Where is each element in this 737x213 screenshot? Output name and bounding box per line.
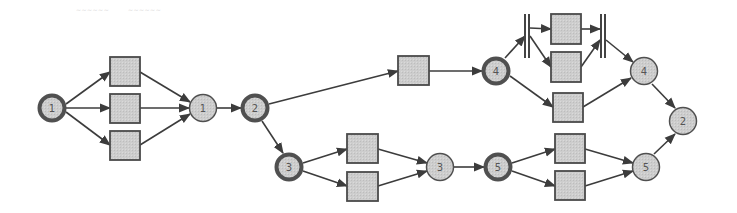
arrow-edge <box>654 134 675 154</box>
arrow-edge <box>140 72 190 102</box>
place-node-p-join-1: 1 <box>190 95 217 122</box>
transition-box-t5a <box>555 134 585 163</box>
arrow-edge <box>269 71 398 104</box>
arrow-edge <box>583 78 631 107</box>
transition-box-t1c <box>110 131 140 160</box>
place-node-p-split-4: 4 <box>484 59 509 84</box>
arrow-edge <box>585 171 633 186</box>
arrow-edge <box>66 72 110 104</box>
arrow-edge <box>510 76 553 107</box>
transition-box-tpa <box>551 14 581 44</box>
place-label: 1 <box>200 103 206 114</box>
place-node-p-join-3: 3 <box>427 154 454 181</box>
arrow-edge <box>262 121 283 153</box>
arrow-edge <box>530 28 551 29</box>
place-node-p-join-4: 4 <box>631 58 658 85</box>
place-node-p-end-2: 2 <box>670 108 697 135</box>
join-bar <box>600 14 606 58</box>
place-node-p-split-3: 3 <box>277 155 302 180</box>
transition-box-t5b <box>555 171 585 200</box>
arrow-edge <box>140 114 190 145</box>
arrow-edge <box>378 171 427 186</box>
transition-box-t1a <box>110 57 140 86</box>
arrow-edge <box>512 149 555 163</box>
arrow-edge <box>512 171 555 186</box>
place-node-p-split-2: 2 <box>243 96 268 121</box>
diagram-canvas: 1123345452 <box>0 0 737 213</box>
place-label: 2 <box>252 103 258 114</box>
place-label: 4 <box>493 66 499 77</box>
place-label: 4 <box>641 66 647 77</box>
fork-bar <box>524 14 530 58</box>
place-label: 3 <box>437 162 443 173</box>
arrow-edge <box>581 40 600 67</box>
place-label: 2 <box>680 116 686 127</box>
transition-box-tpb <box>551 52 581 82</box>
arrow-edge <box>530 36 551 67</box>
transition-box-t4 <box>398 56 429 85</box>
arrow-edge <box>606 40 633 62</box>
place-node-p-split-5: 5 <box>486 155 511 180</box>
arrow-edge <box>505 36 525 58</box>
arrow-edge <box>66 112 110 145</box>
place-label: 5 <box>643 162 649 173</box>
place-label: 1 <box>49 103 55 114</box>
place-node-p-join-5: 5 <box>633 154 660 181</box>
arrow-edge <box>585 149 633 163</box>
place-node-p-start-1: 1 <box>40 96 65 121</box>
transition-box-t1b <box>110 94 140 123</box>
place-label: 5 <box>495 162 501 173</box>
arrow-edge <box>303 171 347 186</box>
transition-box-t3b <box>347 172 378 201</box>
place-label: 3 <box>286 162 292 173</box>
transition-box-t3a <box>347 134 378 163</box>
arrow-edge <box>378 149 427 163</box>
arrow-edge <box>652 84 675 108</box>
arrow-edge <box>303 149 347 163</box>
transition-box-t4c <box>553 93 583 122</box>
